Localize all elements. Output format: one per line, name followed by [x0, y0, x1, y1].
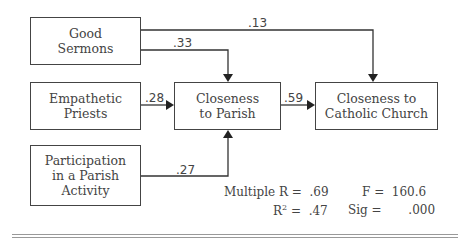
edge-label-sermons-parish: .33 — [173, 36, 192, 50]
node-label: Empathetic — [49, 91, 122, 106]
node-label: in a Parish — [52, 168, 119, 183]
arrowhead-icon — [223, 74, 233, 82]
node-label: Activity — [61, 183, 109, 198]
node-label: Priests — [64, 106, 108, 121]
node-empathetic-priests: Empathetic Priests — [30, 82, 141, 130]
node-label: Sermons — [58, 41, 114, 56]
node-closeness-parish: Closeness to Parish — [174, 82, 281, 130]
arrowhead-icon — [223, 130, 233, 138]
stat-r-squared: R2 = .47 — [273, 203, 328, 218]
divider — [12, 234, 458, 235]
node-label: to Parish — [199, 106, 255, 121]
node-label: Catholic Church — [325, 106, 428, 121]
node-closeness-church: Closeness to Catholic Church — [315, 82, 438, 130]
edge-label-priests-parish: .28 — [145, 91, 164, 105]
edge-label-participation-parish: .27 — [176, 163, 195, 177]
node-good-sermons: Good Sermons — [30, 17, 141, 65]
divider — [12, 237, 458, 238]
arrowhead-icon — [307, 100, 315, 110]
node-participation: Participation in a Parish Activity — [30, 145, 141, 206]
node-label: Closeness — [196, 91, 259, 106]
stat-multiple-r: Multiple R = .69 — [224, 185, 329, 199]
node-label: Good — [69, 26, 102, 41]
stat-sig: Sig = .000 — [348, 203, 435, 217]
arrowhead-icon — [166, 100, 174, 110]
node-label: Closeness to — [337, 91, 417, 106]
edge-label-sermons-church: .13 — [248, 16, 267, 30]
node-label: Participation — [45, 153, 126, 168]
edge-label-parish-church: .59 — [284, 91, 303, 105]
arrowhead-icon — [368, 74, 378, 82]
stat-f: F = 160.6 — [362, 185, 426, 199]
